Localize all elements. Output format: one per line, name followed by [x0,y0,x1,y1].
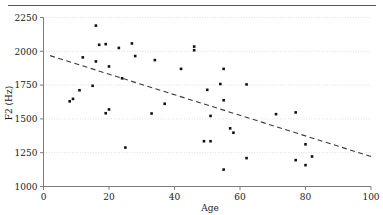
data-point [209,115,212,118]
x-tick-label-100: 100 [362,192,379,202]
data-point [131,42,134,45]
data-point [95,24,98,27]
data-point [104,112,107,115]
data-point [275,113,278,116]
data-point [222,99,225,102]
y-tick-label-1250: 1250 [15,148,38,158]
data-point [108,65,111,68]
tick-marks [40,18,371,191]
data-point [245,157,248,160]
data-point [72,98,75,101]
plot-axes [44,18,372,187]
data-point [95,60,98,63]
data-point [82,56,85,59]
y-tick-label-1000: 1000 [15,182,38,192]
data-point [118,47,121,50]
x-tick-label-80: 80 [300,192,312,202]
x-tick-label-20: 20 [103,192,115,202]
data-point [91,84,94,87]
data-points-group [68,24,313,171]
data-point [134,55,137,58]
data-point [294,111,297,114]
data-point [108,108,111,111]
x-tick-label-40: 40 [169,192,181,202]
y-tick-label-1500: 1500 [15,114,38,124]
data-point [121,77,124,80]
data-point [124,146,127,149]
y-tick-label-2250: 2250 [15,13,38,23]
data-point [229,127,232,130]
data-point [304,164,307,167]
y-tick-label-2000: 2000 [15,47,38,57]
data-point [232,131,235,134]
data-point [245,83,248,86]
data-point [104,43,107,46]
x-tick-label-0: 0 [41,192,47,202]
data-point [219,83,222,86]
data-point [193,49,196,52]
data-point [163,102,166,105]
data-point [294,159,297,162]
figure-container: 100012501500175020002250020406080100 Age… [0,0,383,215]
x-axis-title: Age [200,203,219,213]
data-point [68,100,71,103]
gridlines-group [44,18,372,187]
tick-labels: 100012501500175020002250020406080100 [15,13,380,202]
y-tick-label-1750: 1750 [15,80,38,90]
data-point [222,168,225,171]
data-point [154,59,157,62]
data-point [311,155,314,158]
data-point [193,45,196,48]
scatter-plot: 100012501500175020002250020406080100 Age… [0,0,383,215]
data-point [203,140,206,143]
x-tick-label-60: 60 [234,192,246,202]
data-point [209,140,212,143]
data-point [98,44,101,47]
y-axis-title: F2 (Hz) [4,86,14,120]
data-point [150,112,153,115]
data-point [304,143,307,146]
data-point [78,89,81,92]
data-point [222,68,225,71]
data-point [180,68,183,71]
data-point [206,89,209,92]
